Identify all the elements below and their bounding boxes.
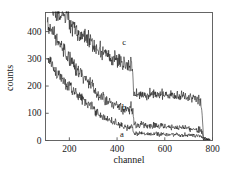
y-axis-ticks xyxy=(46,32,49,141)
y-tick-label: 200 xyxy=(27,81,42,91)
figure-panel: 200400600800 0100200300400 abc channel c… xyxy=(0,0,225,178)
curve-b xyxy=(47,17,210,140)
curve-label-a: a xyxy=(120,129,124,139)
spectrum-chart: 200400600800 0100200300400 abc channel c… xyxy=(0,0,225,178)
y-axis-title: counts xyxy=(4,65,15,91)
y-tick-label: 0 xyxy=(37,136,42,146)
y-tick-label: 100 xyxy=(27,108,42,118)
y-tick-label: 300 xyxy=(27,54,42,64)
curve-label-c: c xyxy=(122,37,126,47)
caption-fragment xyxy=(6,170,219,176)
curve-label-b: b xyxy=(122,102,126,112)
x-axis-tick-labels: 200400600800 xyxy=(62,144,220,154)
curve-a xyxy=(48,57,210,141)
x-axis-ticks xyxy=(69,137,212,140)
x-tick-label: 200 xyxy=(62,144,77,154)
y-axis-tick-labels: 0100200300400 xyxy=(27,27,42,146)
x-axis-title: channel xyxy=(113,154,144,165)
x-tick-label: 600 xyxy=(158,144,173,154)
x-tick-label: 400 xyxy=(110,144,125,154)
y-tick-label: 400 xyxy=(27,27,42,37)
x-tick-label: 800 xyxy=(205,144,220,154)
spectrum-curves xyxy=(47,0,210,140)
curve-c xyxy=(48,0,209,139)
